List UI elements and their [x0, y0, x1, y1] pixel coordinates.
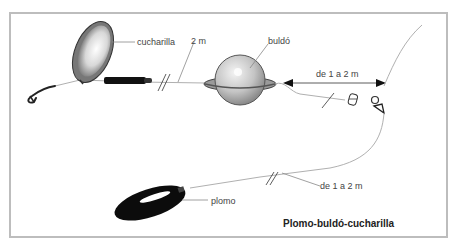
main-line [384, 25, 422, 86]
diagram-title: Plomo-buldó-cucharilla [283, 219, 394, 229]
sinker-line [190, 113, 384, 188]
length-leader [178, 42, 194, 82]
sinker-icon [110, 178, 189, 227]
label-leader-length: 2 m [191, 37, 206, 46]
rig-illustration [0, 0, 454, 246]
tube-icon [104, 77, 152, 84]
label-sinker-line: de 1 a 2 m [320, 182, 363, 191]
break-mark [266, 172, 278, 185]
label-sinker: plomo [211, 197, 236, 206]
float-line [275, 83, 345, 100]
label-float-to-swivel: de 1 a 2 m [316, 70, 359, 79]
label-float: buldó [268, 37, 290, 46]
hook-icon [28, 86, 55, 103]
bead-icon [348, 93, 359, 106]
sinker-length-leader [282, 173, 320, 186]
dimension-arrow [283, 79, 386, 87]
swivel-icon [372, 97, 385, 114]
label-spoon: cucharilla [137, 38, 175, 47]
float-icon [204, 55, 276, 105]
break-mark [322, 93, 334, 108]
